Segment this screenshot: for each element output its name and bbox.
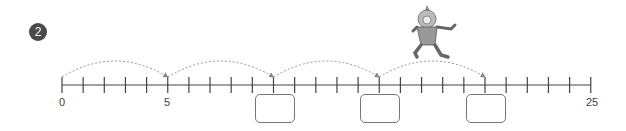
jump-arcs [62, 61, 485, 77]
answer-box-10[interactable] [255, 94, 295, 123]
answer-box-20[interactable] [466, 94, 506, 123]
jumping-clown-icon [413, 5, 455, 57]
label-0: 0 [59, 96, 65, 108]
label-25: 25 [586, 96, 598, 108]
answer-box-15[interactable] [360, 94, 400, 123]
label-5: 5 [164, 96, 170, 108]
number-line [0, 0, 626, 131]
